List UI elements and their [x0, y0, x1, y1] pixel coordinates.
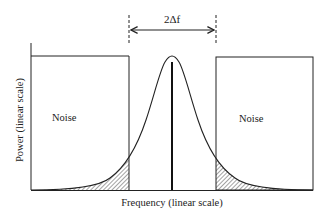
x-axis-label: Frequency (linear scale) — [121, 197, 223, 209]
right-noise-box — [216, 57, 313, 190]
left-noise-box — [31, 56, 129, 190]
bandwidth-label: 2Δf — [164, 13, 181, 25]
diagram-canvas: 2Δf Noise Noise Frequency (linear scale)… — [0, 0, 329, 213]
y-axis-label: Power (linear scale) — [14, 78, 26, 162]
left-noise-label: Noise — [52, 112, 77, 123]
right-noise-label: Noise — [239, 113, 264, 124]
